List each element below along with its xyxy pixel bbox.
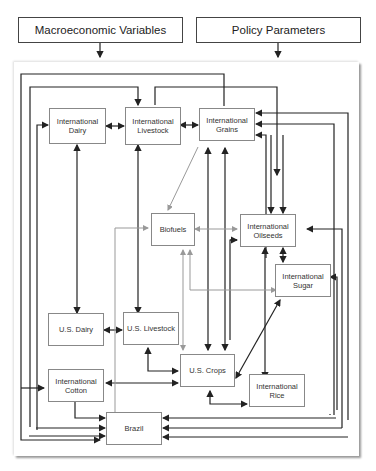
node-us-crops: U.S. Crops	[180, 354, 235, 387]
node-biofuels: Biofuels	[151, 213, 195, 246]
node-intl-rice: International Rice	[249, 374, 305, 407]
node-intl-grains: International Grains	[199, 108, 255, 141]
node-intl-dairy: International Dairy	[49, 108, 106, 144]
node-intl-oilseeds: International Oilseeds	[240, 214, 296, 247]
node-us-livestock: U.S. Livestock	[123, 312, 179, 345]
node-intl-cotton: International Cotton	[48, 369, 104, 402]
node-intl-livestock: International Livestock	[125, 107, 181, 145]
node-brazil: Brazil	[106, 412, 162, 445]
node-us-dairy: U.S. Dairy	[48, 313, 104, 346]
node-intl-sugar: International Sugar	[275, 264, 331, 297]
